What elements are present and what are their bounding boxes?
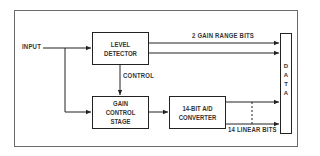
gain-control-stage-label: GAIN CONTROL STAGE (106, 99, 136, 127)
gain-control-stage-block: GAIN CONTROL STAGE (92, 96, 149, 129)
gain-range-bits-label: 2 GAIN RANGE BITS (192, 33, 254, 40)
input-label: INPUT (22, 44, 41, 51)
data-output-block: D A T A (280, 33, 292, 134)
data-label: D A T A (281, 62, 291, 98)
ad-converter-block: 14-BIT A/D CONVERTER (169, 96, 226, 129)
ad-converter-label: 14-BIT A/D CONVERTER (179, 103, 217, 121)
linear-bits-label: 14 LINEAR BITS (228, 127, 277, 134)
level-detector-label: LEVEL DETECTOR (104, 39, 137, 57)
control-label: CONTROL (123, 73, 154, 80)
level-detector-block: LEVEL DETECTOR (92, 32, 149, 65)
